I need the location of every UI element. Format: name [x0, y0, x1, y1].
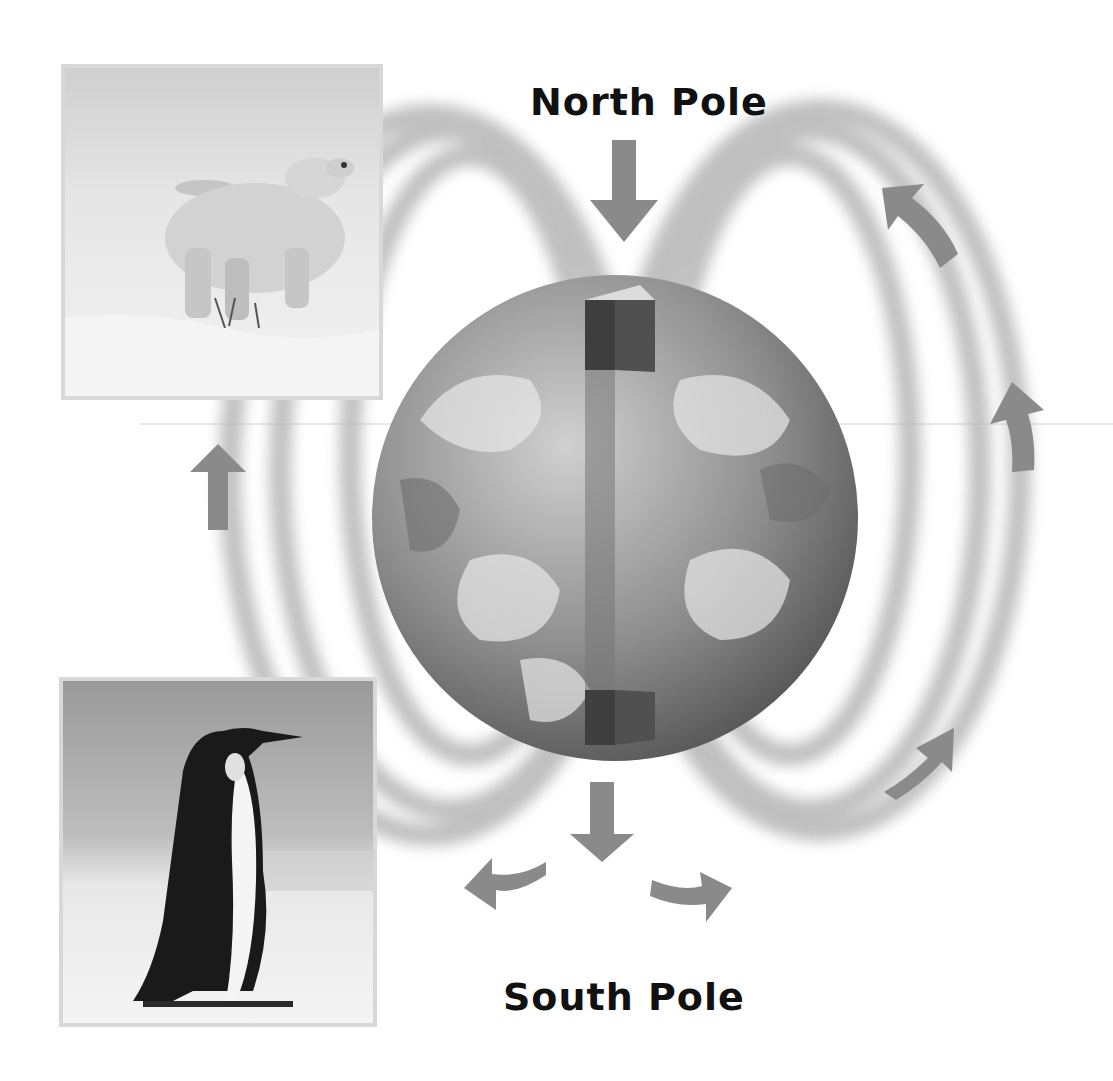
polar-bear-image: [65, 68, 379, 396]
polar-bear-photo: [61, 64, 383, 400]
arrow-down-south-icon: [570, 782, 634, 862]
south-pole-label: South Pole: [503, 975, 745, 1019]
north-pole-label: North Pole: [530, 80, 768, 124]
arrow-down-north-icon: [590, 140, 658, 242]
arrow-curve-left-icon: [464, 858, 546, 910]
penguin-image: [63, 681, 373, 1023]
arrow-curve-right-icon: [650, 872, 732, 922]
arrow-up-right-icon: [990, 382, 1044, 472]
penguin-photo: [59, 677, 377, 1027]
